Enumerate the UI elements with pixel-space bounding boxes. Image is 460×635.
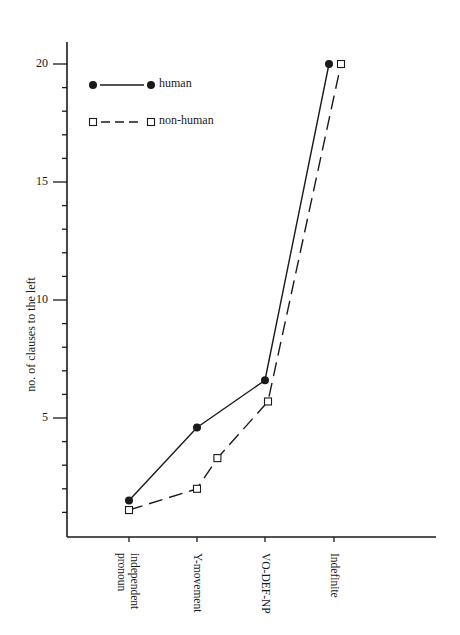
x-tick-label: Indefinite [328, 553, 341, 598]
human-point-marker [193, 423, 201, 431]
series-non-human-line [129, 64, 341, 510]
legend-label-human: human [159, 76, 192, 91]
non-human-point-marker [338, 61, 345, 68]
legend-non-human-marker [90, 119, 97, 126]
legend-human-marker [147, 81, 155, 89]
non-human-point-marker [214, 455, 221, 462]
y-tick-label: 5 [18, 410, 48, 425]
chart-plot-area [0, 0, 460, 635]
non-human-point-marker [265, 398, 272, 405]
y-axis-title: no. of clauses to the left [24, 265, 39, 405]
legend-non-human-marker [148, 119, 155, 126]
y-tick-label: 15 [18, 174, 48, 189]
human-point-marker [261, 376, 269, 384]
line-chart: 5101520 no. of clauses to the left indep… [0, 0, 460, 635]
x-tick-label: Y-movement [191, 553, 204, 612]
non-human-point-marker [194, 485, 201, 492]
human-point-marker [325, 60, 333, 68]
x-tick-label: independentpronoun [115, 553, 141, 609]
non-human-point-marker [126, 507, 133, 514]
legend-label-non-human: non-human [159, 113, 214, 128]
human-point-marker [125, 497, 133, 505]
series-human-line [129, 64, 329, 501]
x-tick-label: VO-DEF-NP [259, 553, 272, 614]
legend-human-marker [89, 81, 97, 89]
y-tick-label: 20 [18, 56, 48, 71]
